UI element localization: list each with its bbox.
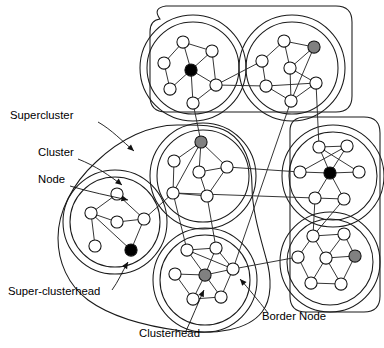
node-plain[interactable] xyxy=(284,62,296,74)
node-plain[interactable] xyxy=(164,83,176,95)
inter-cluster-link xyxy=(216,85,266,86)
network-diagram: SuperclusterClusterNodeSuper-clusterhead… xyxy=(0,0,384,348)
node-border[interactable] xyxy=(221,161,233,173)
node-plain[interactable] xyxy=(307,230,319,242)
label-node: Node xyxy=(38,173,65,185)
node-plain[interactable] xyxy=(187,97,199,109)
node-plain[interactable] xyxy=(85,207,97,219)
label-border-node: Border Node xyxy=(262,310,326,322)
node-super-clusterhead[interactable] xyxy=(125,244,137,256)
node-plain[interactable] xyxy=(193,166,205,178)
node-plain[interactable] xyxy=(313,141,325,153)
node-clusterhead[interactable] xyxy=(195,136,207,148)
supercluster-top xyxy=(150,6,352,112)
label-super-clusterhead: Super-clusterhead xyxy=(8,285,100,297)
node-plain[interactable] xyxy=(278,35,290,47)
label-clusterhead: Clusterhead xyxy=(139,327,200,339)
node-plain[interactable] xyxy=(187,293,199,305)
node-border[interactable] xyxy=(292,251,304,263)
node-plain[interactable] xyxy=(89,240,101,252)
node-plain[interactable] xyxy=(111,216,123,228)
node-clusterhead[interactable] xyxy=(349,250,361,262)
node-plain[interactable] xyxy=(310,77,322,89)
node-plain[interactable] xyxy=(158,57,170,69)
node-plain[interactable] xyxy=(168,155,180,167)
label-leader-lines xyxy=(70,122,268,331)
node-plain[interactable] xyxy=(305,277,317,289)
supercluster-left xyxy=(58,125,270,332)
node-clusterhead[interactable] xyxy=(199,269,211,281)
node-border[interactable] xyxy=(167,187,179,199)
node-border[interactable] xyxy=(227,263,239,275)
node-border[interactable] xyxy=(285,95,297,107)
node-plain[interactable] xyxy=(206,45,218,57)
label-cluster: Cluster xyxy=(38,146,74,158)
node-plain[interactable] xyxy=(353,166,365,178)
label-supercluster: Supercluster xyxy=(10,109,74,121)
node-border[interactable] xyxy=(309,192,321,204)
node-plain[interactable] xyxy=(338,228,350,240)
node-border[interactable] xyxy=(256,55,268,67)
node-plain[interactable] xyxy=(169,268,181,280)
leader-cluster-arrowhead xyxy=(115,179,122,185)
node-plain[interactable] xyxy=(181,244,193,256)
node-plain[interactable] xyxy=(338,193,350,205)
node-plain[interactable] xyxy=(335,278,347,290)
node-border[interactable] xyxy=(260,80,272,92)
node-border[interactable] xyxy=(210,79,222,91)
node-plain[interactable] xyxy=(215,291,227,303)
node-plain[interactable] xyxy=(210,242,222,254)
node-clusterhead[interactable] xyxy=(308,41,320,53)
node-plain[interactable] xyxy=(341,140,353,152)
leader-supercluster xyxy=(98,122,134,151)
node-super-clusterhead[interactable] xyxy=(324,167,336,179)
node-plain[interactable] xyxy=(177,36,189,48)
node-plain[interactable] xyxy=(320,252,332,264)
node-super-clusterhead[interactable] xyxy=(185,64,197,76)
diagram-canvas: SuperclusterClusterNodeSuper-clusterhead… xyxy=(0,0,384,348)
leader-border-node xyxy=(240,279,268,313)
node-plain[interactable] xyxy=(201,190,213,202)
inter-cluster-link xyxy=(233,257,298,269)
node-border[interactable] xyxy=(138,213,150,225)
node-border[interactable] xyxy=(294,166,306,178)
